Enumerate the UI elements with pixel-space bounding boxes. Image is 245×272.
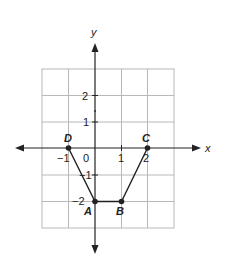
point-b (119, 199, 125, 205)
point-c (145, 145, 151, 151)
y-tick-1: 1 (83, 116, 89, 128)
x-tick-neg1: −1 (57, 152, 70, 164)
label-c: C (142, 132, 151, 144)
x-axis (15, 145, 201, 152)
point-a (92, 199, 98, 205)
label-b: B (116, 205, 124, 217)
x-axis-label: x (204, 142, 211, 154)
point-d (66, 145, 72, 151)
x-axis-right-arrow-icon (192, 145, 201, 152)
x-tick-1: 1 (118, 152, 124, 164)
y-tick-2: 2 (82, 90, 88, 102)
x-axis-left-arrow-icon (15, 145, 24, 152)
y-axis-label: y (90, 26, 98, 38)
label-d: D (64, 132, 72, 144)
coordinate-plane: y x 2 1 0 −1 1 2 −1 −2 D C A B (0, 0, 245, 272)
y-axis-up-arrow-icon (92, 43, 99, 52)
y-axis-bottom-arrow-icon (92, 245, 99, 254)
x-tick-2: 2 (143, 152, 149, 164)
label-a: A (83, 205, 92, 217)
origin-label: 0 (83, 152, 89, 164)
y-tick-neg1: −1 (79, 169, 92, 181)
y-tick-neg2: −2 (72, 195, 85, 207)
